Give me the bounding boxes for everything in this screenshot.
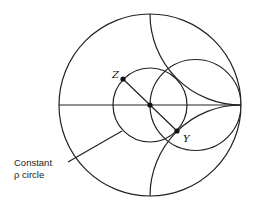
z-label: Z (111, 69, 120, 80)
annotation-leader-line (68, 131, 122, 162)
annotation-line-1: Constant (14, 157, 52, 168)
smith-chart: Z Y Constant ρ circle (0, 0, 254, 206)
y-point (174, 128, 179, 133)
z-point (120, 76, 125, 81)
y-label: Y (183, 133, 191, 144)
annotation-line-2: ρ circle (14, 169, 44, 180)
center-point (147, 102, 152, 107)
